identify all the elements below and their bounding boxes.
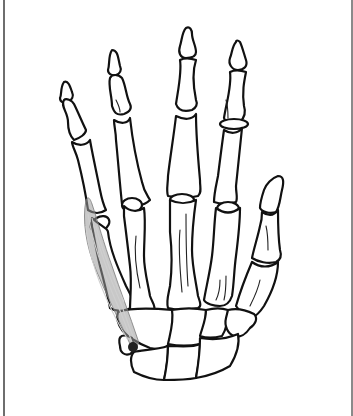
index-finger xyxy=(214,41,248,217)
figure-frame xyxy=(0,0,353,416)
pisiform-attachment-dot xyxy=(128,342,138,352)
ring-finger xyxy=(108,50,150,212)
middle-finger xyxy=(167,27,200,206)
hand-skeleton-illustration xyxy=(0,0,353,416)
